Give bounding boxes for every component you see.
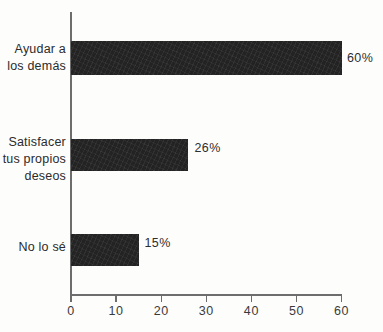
category-label: No lo sé [19, 239, 66, 256]
bar [71, 234, 139, 266]
x-axis-tick-label: 40 [244, 304, 259, 318]
bar [71, 41, 342, 75]
bar-chart: 0 10 20 30 40 50 60 Ayudar a los demás 6… [0, 0, 383, 332]
x-axis-tick [296, 295, 297, 302]
x-axis-tick-label: 10 [109, 304, 124, 318]
x-axis-tick [341, 295, 342, 302]
x-axis-tick [70, 295, 71, 302]
x-axis-tick-label: 50 [289, 304, 304, 318]
category-label: Ayudar a los demás [7, 41, 66, 75]
x-axis-tick-label: 0 [67, 304, 75, 318]
x-axis-tick [251, 295, 252, 302]
x-axis-tick-label: 30 [199, 304, 214, 318]
bar-value-label: 60% [347, 51, 373, 65]
x-axis-tick [206, 295, 207, 302]
x-axis-tick [161, 295, 162, 302]
x-axis-tick [115, 295, 116, 302]
category-label: Satisfacer tus propios deseos [3, 134, 66, 185]
bar-value-label: 15% [145, 236, 171, 250]
x-axis-tick-label: 20 [154, 304, 169, 318]
bar [71, 139, 188, 171]
x-axis-tick-label: 60 [334, 304, 349, 318]
bar-value-label: 26% [195, 141, 221, 155]
